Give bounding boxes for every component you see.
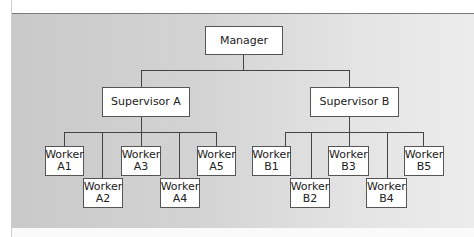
node-label: Worker A2 <box>84 181 123 205</box>
connector-supervisor-a-down <box>141 116 142 132</box>
node-supervisor-b: Supervisor B <box>310 87 399 117</box>
connector-to-worker-b4 <box>387 132 388 178</box>
node-label: Supervisor A <box>111 96 181 108</box>
node-label: Worker A3 <box>122 149 161 173</box>
connector-to-supervisor-b <box>349 70 350 87</box>
connector-to-worker-b1 <box>285 132 286 146</box>
connector-supervisor-b-down <box>349 116 350 132</box>
node-worker-b2: Worker B2 <box>290 178 330 208</box>
node-label: Worker B3 <box>329 149 368 173</box>
connector-to-worker-a5 <box>216 132 217 146</box>
node-worker-a4: Worker A4 <box>160 178 200 208</box>
node-worker-b5: Worker B5 <box>404 146 444 176</box>
node-worker-b3: Worker B3 <box>328 146 369 176</box>
connector-to-worker-a1 <box>64 132 65 146</box>
node-label: Worker A5 <box>197 149 236 173</box>
node-worker-a1: Worker A1 <box>45 146 84 176</box>
connector-to-supervisor-a <box>141 70 142 87</box>
node-label: Worker A1 <box>45 149 84 173</box>
node-label: Manager <box>220 35 268 47</box>
connector-to-worker-b2 <box>311 132 312 178</box>
node-label: Worker B4 <box>367 181 406 205</box>
node-worker-a2: Worker A2 <box>83 178 123 208</box>
connector-workers-b-bus <box>285 132 424 133</box>
node-supervisor-a: Supervisor A <box>102 87 190 117</box>
connector-to-worker-b3 <box>349 132 350 146</box>
node-manager: Manager <box>205 26 283 55</box>
connector-to-worker-a2 <box>102 132 103 178</box>
connector-manager-down <box>243 54 244 70</box>
node-label: Worker B1 <box>252 149 291 173</box>
node-worker-a3: Worker A3 <box>121 146 161 176</box>
node-worker-a5: Worker A5 <box>197 146 236 176</box>
connector-to-worker-b5 <box>423 132 424 146</box>
connector-to-worker-a3 <box>141 132 142 146</box>
node-label: Supervisor B <box>320 96 390 108</box>
connector-to-worker-a4 <box>179 132 180 178</box>
node-label: Worker B2 <box>291 181 330 205</box>
node-label: Worker B5 <box>405 149 444 173</box>
panel-bottom-margin <box>12 228 474 237</box>
node-label: Worker A4 <box>161 181 200 205</box>
node-worker-b4: Worker B4 <box>366 178 407 208</box>
node-worker-b1: Worker B1 <box>252 146 291 176</box>
connector-supervisor-bus <box>141 70 350 71</box>
